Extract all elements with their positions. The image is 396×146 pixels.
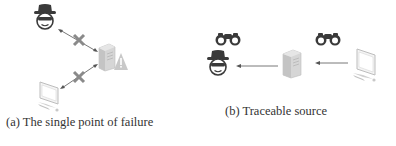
server-icon xyxy=(283,50,301,78)
computer-icon xyxy=(353,49,376,82)
computer-icon xyxy=(38,82,59,112)
trace-arrow-server-to-hacker xyxy=(236,64,278,68)
blocked-link-server-computer xyxy=(60,64,98,89)
x-mark-icon xyxy=(74,72,84,82)
hacker-icon xyxy=(34,4,56,29)
caption-a: (a) The single point of failure xyxy=(6,115,153,130)
server-icon xyxy=(99,44,115,71)
trace-arrow-computer-to-server xyxy=(315,61,348,65)
caption-b: (b) Traceable source xyxy=(225,104,327,119)
panel-single-point-of-failure: (a) The single point of failure xyxy=(0,0,190,146)
blocked-link-hacker-server xyxy=(58,29,98,52)
x-mark-icon xyxy=(74,35,84,45)
binoculars-icon xyxy=(216,33,241,46)
warning-icon xyxy=(114,53,128,70)
binoculars-icon xyxy=(316,33,341,46)
hacker-icon xyxy=(207,50,229,75)
panel-traceable-source: (b) Traceable source xyxy=(190,0,396,146)
